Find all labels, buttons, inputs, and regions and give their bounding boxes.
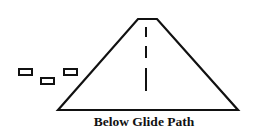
approach-light-2 <box>41 78 54 84</box>
approach-lights <box>19 69 77 84</box>
runway-outline <box>58 19 238 110</box>
approach-light-1 <box>19 69 32 75</box>
approach-light-3 <box>64 69 77 75</box>
diagram-caption: Below Glide Path <box>0 114 254 130</box>
